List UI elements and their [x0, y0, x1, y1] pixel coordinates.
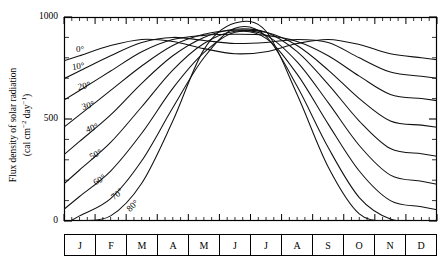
month-axis-strip: JFMAMJJASOND: [64, 234, 437, 256]
month-cell-3: M: [127, 235, 158, 255]
month-cell-11: N: [375, 235, 406, 255]
month-cell-8: A: [282, 235, 313, 255]
plot-area: [0, 0, 446, 264]
month-cell-7: J: [251, 235, 282, 255]
curve-latitude-40deg: [64, 29, 437, 156]
month-cell-9: S: [313, 235, 344, 255]
curve-latitude-60deg: [64, 31, 437, 210]
month-cell-4: A: [158, 235, 189, 255]
month-cell-10: O: [344, 235, 375, 255]
solar-radiation-chart: Flux density of solar radiation (cal cm−…: [0, 0, 446, 264]
curve-latitude-0deg: [64, 39, 437, 61]
month-cell-6: J: [220, 235, 251, 255]
month-cell-2: F: [96, 235, 127, 255]
month-cell-5: M: [189, 235, 220, 255]
curve-latitude-30deg: [64, 30, 437, 127]
month-cell-12: D: [406, 235, 436, 255]
latitude-label-10deg: 10°: [71, 60, 85, 72]
curve-latitude-20deg: [64, 34, 437, 100]
latitude-label-0deg: 0°: [76, 44, 84, 54]
month-cell-1: J: [65, 235, 96, 255]
